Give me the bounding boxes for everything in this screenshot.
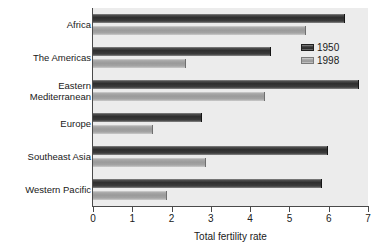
bar-track: [93, 14, 368, 23]
legend-item[interactable]: 1950: [301, 42, 339, 53]
x-tick-label: 4: [240, 213, 260, 224]
bar-track: [93, 179, 368, 188]
legend-label: 1950: [317, 42, 339, 53]
bar-track: [93, 125, 368, 134]
bar-1998[interactable]: [93, 59, 186, 68]
category-group: Southeast Asia: [0, 140, 382, 173]
x-tick: [132, 207, 133, 212]
x-tick-label: 1: [122, 213, 142, 224]
bar-1950[interactable]: [93, 47, 271, 56]
category-group: Eastern Mediterranean: [0, 74, 382, 107]
bar-1998[interactable]: [93, 158, 206, 167]
x-tick: [250, 207, 251, 212]
category-label: Western Pacific: [0, 184, 91, 195]
fertility-rate-bar-chart: AfricaThe AmericasEastern MediterraneanE…: [0, 0, 382, 252]
x-tick: [289, 207, 290, 212]
category-label: Eastern Mediterranean: [0, 80, 91, 102]
x-axis-line: [92, 206, 369, 207]
legend-swatch-icon: [301, 44, 314, 51]
x-tick: [368, 207, 369, 212]
x-tick-label: 2: [162, 213, 182, 224]
x-axis-title: Total fertility rate: [93, 231, 368, 242]
category-group: Western Pacific: [0, 173, 382, 206]
bar-1998[interactable]: [93, 26, 306, 35]
category-label: Africa: [0, 19, 91, 30]
bar-track: [93, 92, 368, 101]
bar-1998[interactable]: [93, 92, 265, 101]
x-tick: [172, 207, 173, 212]
bar-1998[interactable]: [93, 125, 153, 134]
x-tick-label: 7: [358, 213, 378, 224]
x-tick-label: 6: [319, 213, 339, 224]
x-tick-label: 5: [279, 213, 299, 224]
x-tick: [211, 207, 212, 212]
bar-1998[interactable]: [93, 191, 167, 200]
bar-1950[interactable]: [93, 113, 202, 122]
bar-track: [93, 26, 368, 35]
category-label: The Americas: [0, 52, 91, 63]
bar-1950[interactable]: [93, 146, 328, 155]
x-tick: [93, 207, 94, 212]
chart-legend: 19501998: [301, 42, 339, 66]
bar-track: [93, 191, 368, 200]
bar-track: [93, 146, 368, 155]
legend-label: 1998: [317, 55, 339, 66]
x-tick-label: 3: [201, 213, 221, 224]
category-group: Africa: [0, 8, 382, 41]
x-tick: [329, 207, 330, 212]
bar-track: [93, 158, 368, 167]
bar-track: [93, 80, 368, 89]
category-group: Europe: [0, 107, 382, 140]
bar-1950[interactable]: [93, 179, 322, 188]
legend-swatch-icon: [301, 57, 314, 64]
bar-1950[interactable]: [93, 80, 359, 89]
category-label: Southeast Asia: [0, 151, 91, 162]
legend-item[interactable]: 1998: [301, 55, 339, 66]
bar-1950[interactable]: [93, 14, 345, 23]
category-label: Europe: [0, 118, 91, 129]
x-tick-label: 0: [83, 213, 103, 224]
bar-track: [93, 113, 368, 122]
